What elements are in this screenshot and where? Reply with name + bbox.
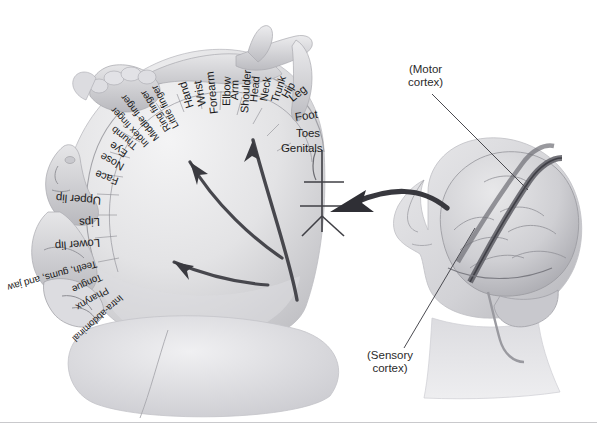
callout-motor-cortex: (Motor cortex) — [408, 63, 443, 89]
callout-sensory-cortex: (Sensory cortex) — [367, 349, 413, 375]
bottom-rule — [0, 422, 597, 423]
neck — [424, 318, 560, 399]
callout-motor-cortex-line2: cortex) — [408, 76, 443, 89]
head-profile-artwork — [394, 138, 582, 399]
artwork-layer — [0, 0, 597, 429]
cortex-label-toes: Toes — [296, 127, 320, 139]
cerebellum-blob — [68, 316, 339, 417]
cortex-label-lips: Lips — [79, 216, 100, 229]
cortex-label-elbow: Elbow — [220, 76, 233, 106]
magnify-arrow-head — [330, 190, 374, 212]
figure-canvas: Toes Foot Leg Hip Trunk Neck Head Should… — [0, 0, 597, 429]
callout-sensory-cortex-line1: (Sensory — [367, 349, 413, 362]
callout-sensory-cortex-line2: cortex) — [367, 362, 413, 375]
callout-motor-cortex-line1: (Motor — [408, 63, 443, 76]
cortex-label-genitals: Genitals — [281, 142, 322, 154]
